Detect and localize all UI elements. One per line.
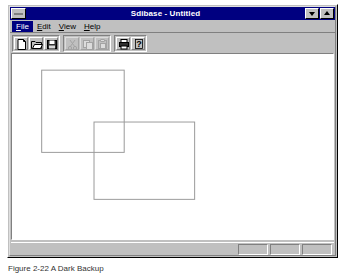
maximize-button[interactable] bbox=[320, 8, 334, 19]
drawing-canvas[interactable] bbox=[12, 54, 333, 239]
title-bar: Sdibase - Untitled bbox=[10, 7, 335, 20]
print-icon bbox=[118, 39, 130, 50]
window-title: Sdibase - Untitled bbox=[26, 7, 305, 20]
menu-item-file-rest: ile bbox=[21, 22, 29, 31]
figure-caption: Figure 2-22 A Dark Backup bbox=[8, 264, 104, 273]
copy-button[interactable] bbox=[80, 37, 94, 50]
status-pane-3 bbox=[302, 244, 332, 255]
menu-item-help-rest: elp bbox=[90, 22, 101, 31]
menu-item-view[interactable]: View bbox=[55, 21, 80, 32]
menu-item-file[interactable]: File bbox=[12, 21, 33, 32]
new-icon bbox=[16, 39, 28, 50]
toolbar-group-file bbox=[12, 35, 60, 52]
client-drawing-area[interactable] bbox=[11, 53, 334, 240]
menu-item-edit-rest: dit bbox=[42, 22, 50, 31]
open-folder-icon bbox=[31, 39, 43, 50]
system-menu-icon[interactable] bbox=[11, 8, 26, 19]
page-root: Sdibase - Untitled File Edit View Help bbox=[0, 0, 345, 273]
open-button[interactable] bbox=[29, 37, 43, 50]
paste-button[interactable] bbox=[95, 37, 109, 50]
rectangle-1[interactable] bbox=[42, 70, 125, 152]
status-pane-2 bbox=[270, 244, 300, 255]
save-floppy-icon bbox=[46, 39, 58, 50]
toolbar-group-misc: ? bbox=[114, 35, 147, 52]
status-pane-1 bbox=[238, 244, 268, 255]
status-bar bbox=[11, 242, 334, 255]
rectangle-2[interactable] bbox=[94, 122, 195, 199]
minimize-button[interactable] bbox=[305, 8, 319, 19]
menu-bar: File Edit View Help bbox=[10, 21, 335, 33]
application-window: Sdibase - Untitled File Edit View Help bbox=[7, 4, 338, 258]
save-button[interactable] bbox=[44, 37, 58, 50]
new-button[interactable] bbox=[14, 37, 28, 50]
help-button[interactable]: ? bbox=[131, 37, 145, 50]
menu-item-edit[interactable]: Edit bbox=[33, 21, 55, 32]
arrow-down-icon bbox=[306, 9, 318, 18]
svg-text:?: ? bbox=[136, 39, 142, 49]
help-question-icon: ? bbox=[133, 39, 145, 50]
copy-icon bbox=[82, 39, 94, 50]
menu-item-view-rest: iew bbox=[64, 22, 76, 31]
menu-item-help[interactable]: Help bbox=[80, 21, 104, 32]
cut-button[interactable] bbox=[65, 37, 79, 50]
paste-clipboard-icon bbox=[97, 39, 109, 50]
toolbar-group-edit bbox=[63, 35, 111, 52]
arrow-up-icon bbox=[321, 9, 333, 18]
toolbar: ? bbox=[10, 34, 335, 52]
print-button[interactable] bbox=[116, 37, 130, 50]
cut-scissors-icon bbox=[67, 39, 79, 50]
